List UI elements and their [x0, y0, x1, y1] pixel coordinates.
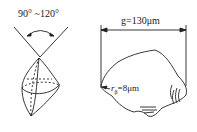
dim-arrow-left-icon [101, 28, 107, 32]
hatch-4 [171, 85, 173, 99]
abrasive-grain-figure [101, 25, 187, 116]
radius-label: rβ=8μm [111, 83, 139, 97]
grain-equator-back [22, 82, 59, 88]
diagram-canvas [0, 0, 197, 132]
dim-arrow-right-icon [180, 28, 186, 32]
grain-equator-front [22, 85, 59, 94]
hatch-2 [176, 88, 178, 103]
arc-arrow-right-icon [50, 33, 54, 36]
cone-grain-figure [14, 27, 68, 116]
angle-label: 90° ~120° [18, 9, 59, 19]
radius-value: =8μm [118, 83, 139, 93]
arc-arrow-left-icon [27, 33, 31, 36]
grain-body [22, 58, 59, 116]
width-label: g=130μm [121, 16, 160, 26]
hatch-7 [144, 112, 154, 113]
right-angle-line [40, 27, 68, 57]
hatch-1 [173, 90, 175, 104]
